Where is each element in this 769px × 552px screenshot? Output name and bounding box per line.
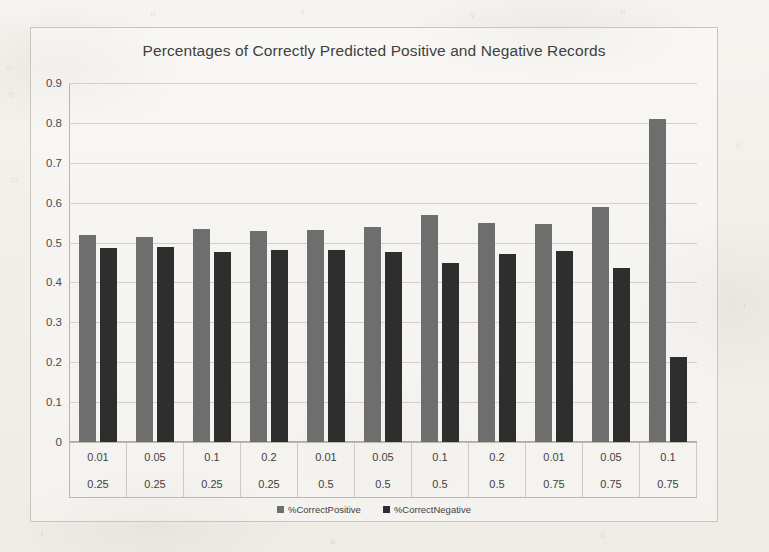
y-axis-tick-label: 0.5 — [46, 237, 62, 249]
table-cell-row2: 0.5 — [298, 470, 354, 497]
y-axis-tick-label: 0.8 — [46, 117, 62, 129]
chart-container: Percentages of Correctly Predicted Posit… — [30, 27, 718, 522]
table-cell-row2: 0.5 — [355, 470, 411, 497]
plot-area: 0.90.80.70.60.50.40.30.20.10 — [69, 83, 697, 442]
bleedthrough-mark: t — [40, 528, 43, 538]
table-column: 0.050.25 — [127, 443, 184, 497]
legend-label: %CorrectNegative — [394, 504, 471, 515]
bar-positive[interactable] — [136, 237, 153, 442]
table-cell-row2: 0.75 — [583, 470, 639, 497]
table-cell-row2: 0.5 — [469, 470, 525, 497]
bleedthrough-mark: s — [300, 6, 305, 16]
y-axis-tick-label: 0.9 — [46, 77, 62, 89]
legend-item-positive[interactable]: %CorrectPositive — [277, 504, 361, 515]
bar-negative[interactable] — [442, 263, 459, 443]
table-column: 0.050.75 — [583, 443, 640, 497]
bleedthrough-mark: e — [735, 140, 740, 150]
table-column: 0.050.5 — [355, 443, 412, 497]
bar-negative[interactable] — [670, 357, 687, 442]
legend-label: %CorrectPositive — [288, 504, 361, 515]
bar-positive[interactable] — [535, 224, 552, 442]
legend-item-negative[interactable]: %CorrectNegative — [383, 504, 471, 515]
bar-negative[interactable] — [100, 248, 117, 442]
bar-group — [297, 83, 354, 442]
table-cell-row1: 0.2 — [469, 443, 525, 470]
bleedthrough-mark: 0 — [8, 90, 13, 100]
bar-positive[interactable] — [307, 230, 324, 442]
table-cell-row2: 0.75 — [640, 470, 696, 497]
chart-title: Percentages of Correctly Predicted Posit… — [31, 42, 717, 60]
bleedthrough-mark: u — [150, 8, 155, 18]
bleedthrough-mark: n — [620, 7, 625, 17]
bar-negative[interactable] — [385, 252, 402, 442]
table-column: 0.010.5 — [298, 443, 355, 497]
bar-group — [354, 83, 411, 442]
bar-positive[interactable] — [649, 119, 666, 442]
bar-negative[interactable] — [499, 254, 516, 442]
bar-negative[interactable] — [214, 252, 231, 442]
table-cell-row1: 0.1 — [640, 443, 696, 470]
y-axis-tick-label: 0 — [56, 436, 62, 448]
table-column: 0.010.75 — [526, 443, 583, 497]
bar-group — [69, 83, 126, 442]
y-axis-tick-label: 0.2 — [46, 356, 62, 368]
table-column: 0.10.5 — [412, 443, 469, 497]
bleedthrough-mark: o — [600, 530, 605, 540]
bar-positive[interactable] — [421, 215, 438, 442]
bar-group — [126, 83, 183, 442]
y-axis-tick-label: 0.6 — [46, 197, 62, 209]
table-cell-row1: 0.01 — [70, 443, 126, 470]
bar-negative[interactable] — [328, 250, 345, 442]
bar-positive[interactable] — [364, 227, 381, 442]
bleedthrough-mark: v — [470, 10, 475, 20]
y-axis-tick-label: 0.7 — [46, 157, 62, 169]
bar-group — [469, 83, 526, 442]
bar-group — [583, 83, 640, 442]
table-cell-row2: 0.25 — [184, 470, 240, 497]
bar-groups — [69, 83, 697, 442]
table-cell-row1: 0.1 — [184, 443, 240, 470]
bar-group — [240, 83, 297, 442]
bleedthrough-mark: r — [742, 300, 745, 310]
chart-legend: %CorrectPositive%CorrectNegative — [31, 504, 717, 515]
table-column: 0.20.5 — [469, 443, 526, 497]
y-axis-tick-label: 0.1 — [46, 396, 62, 408]
legend-swatch-icon — [277, 506, 284, 513]
table-cell-row2: 0.25 — [70, 470, 126, 497]
bar-positive[interactable] — [478, 223, 495, 442]
bleedthrough-mark: a — [330, 536, 335, 546]
bar-group — [526, 83, 583, 442]
table-column: 0.10.25 — [184, 443, 241, 497]
bar-negative[interactable] — [271, 250, 288, 442]
table-cell-row1: 0.05 — [127, 443, 183, 470]
bar-negative[interactable] — [556, 251, 573, 442]
bar-positive[interactable] — [79, 235, 96, 442]
bar-negative[interactable] — [157, 247, 174, 442]
table-cell-row1: 0.05 — [355, 443, 411, 470]
table-cell-row1: 0.2 — [241, 443, 297, 470]
y-axis-tick-label: 0.3 — [46, 316, 62, 328]
table-cell-row2: 0.5 — [412, 470, 468, 497]
bar-group — [412, 83, 469, 442]
bleedthrough-mark: o — [6, 62, 11, 72]
table-cell-row1: 0.05 — [583, 443, 639, 470]
bleedthrough-mark: III — [10, 175, 19, 185]
table-column: 0.010.25 — [70, 443, 127, 497]
bar-positive[interactable] — [193, 229, 210, 442]
table-column: 0.20.25 — [241, 443, 298, 497]
bar-positive[interactable] — [592, 207, 609, 442]
table-cell-row2: 0.25 — [127, 470, 183, 497]
bar-positive[interactable] — [250, 231, 267, 442]
y-axis-tick-label: 0.4 — [46, 276, 62, 288]
table-cell-row1: 0.1 — [412, 443, 468, 470]
table-cell-row2: 0.75 — [526, 470, 582, 497]
bar-group — [640, 83, 697, 442]
legend-swatch-icon — [383, 506, 390, 513]
table-column: 0.10.75 — [640, 443, 697, 497]
table-cell-row2: 0.25 — [241, 470, 297, 497]
table-cell-row1: 0.01 — [526, 443, 582, 470]
bar-group — [183, 83, 240, 442]
table-cell-row1: 0.01 — [298, 443, 354, 470]
category-data-table: 0.010.250.050.250.10.250.20.250.010.50.0… — [69, 442, 697, 498]
bar-negative[interactable] — [613, 268, 630, 442]
